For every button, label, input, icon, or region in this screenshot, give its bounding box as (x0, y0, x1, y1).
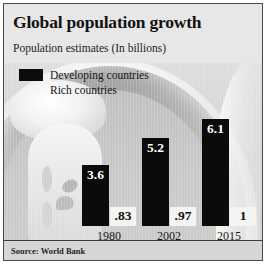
legend-label-developing-countries: Developing countries (50, 69, 149, 81)
bar-rich-2002: .97 (170, 207, 196, 226)
legend-item-developing-countries: Developing countries (19, 67, 149, 82)
watermark-detail-b (42, 202, 52, 228)
bar-developing-2015: 6.1 (202, 119, 229, 226)
watermark-detail-a (42, 166, 52, 192)
chart-title: Global population growth (13, 12, 201, 33)
chart-subtitle: Population estimates (In billions) (13, 42, 166, 54)
bar-developing-2002: 5.2 (142, 138, 169, 226)
watermark-arc-right-edge (216, 56, 262, 260)
chart-legend: Developing countries Rich countries (19, 67, 149, 97)
bar-value-developing-1980: 3.6 (82, 167, 109, 182)
watermark-detail-c (60, 177, 80, 195)
legend-swatch-rich-countries (19, 84, 43, 96)
chart-frame: Global population growth Population esti… (3, 3, 263, 261)
watermark-detail-d (56, 196, 74, 210)
infographic-panel: Global population growth Population esti… (0, 0, 266, 265)
bar-value-rich-1980: .83 (110, 208, 136, 223)
watermark-body-shape (28, 124, 102, 244)
legend-label-rich-countries: Rich countries (50, 84, 117, 96)
bar-rich-2015: 1 (230, 207, 256, 226)
legend-swatch-developing-countries (19, 69, 43, 81)
bar-rich-1980: .83 (110, 207, 136, 226)
bar-developing-1980: 3.6 (82, 165, 109, 226)
legend-item-rich-countries: Rich countries (19, 82, 149, 97)
watermark-arc-inner (4, 90, 224, 260)
bar-value-rich-2015: 1 (230, 208, 256, 223)
bar-value-developing-2015: 6.1 (202, 121, 229, 136)
source-attribution: Source: World Bank (11, 246, 85, 256)
bar-value-rich-2002: .97 (170, 208, 196, 223)
bar-value-developing-2002: 5.2 (142, 140, 169, 155)
